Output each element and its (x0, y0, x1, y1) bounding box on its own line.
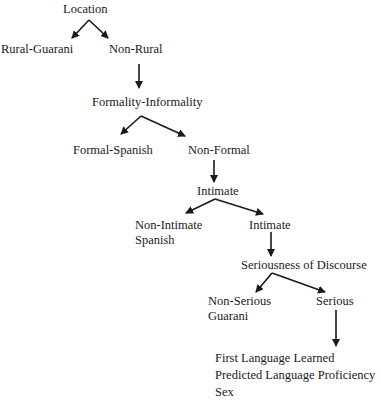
node-rural-guarani: Rural-Guarani (1, 42, 73, 57)
node-non-intimate-line1: Non-Intimate (135, 218, 202, 233)
arrow-seriousness-nonserious (256, 273, 272, 292)
arrow-location-nonrural (89, 20, 108, 38)
decision-tree-diagram: Location Rural-Guarani Non-Rural Formali… (0, 0, 380, 403)
node-location: Location (63, 2, 107, 17)
node-final-line3: Sex (215, 384, 375, 401)
node-non-serious-line1: Non-Serious (208, 294, 271, 309)
node-final-line2: Predicted Language Proficiency (215, 367, 375, 384)
node-final-factors: First Language Learned Predicted Languag… (215, 350, 375, 401)
arrow-intimate-intimate (215, 199, 263, 214)
node-non-intimate: Non-Intimate Spanish (135, 218, 202, 248)
node-final-line1: First Language Learned (215, 350, 375, 367)
node-non-serious-line2: Guarani (208, 309, 271, 324)
node-non-serious: Non-Serious Guarani (208, 294, 271, 324)
node-formal-spanish: Formal-Spanish (73, 143, 153, 158)
arrow-seriousness-serious (272, 273, 325, 292)
node-seriousness-of-discourse: Seriousness of Discourse (241, 258, 367, 273)
arrow-intimate-nonintimate (186, 199, 215, 213)
node-intimate: Intimate (249, 218, 291, 233)
tree-arrows (0, 0, 380, 403)
node-non-rural: Non-Rural (109, 42, 162, 57)
node-non-formal: Non-Formal (188, 143, 250, 158)
node-formality-informality: Formality-Informality (92, 95, 202, 110)
arrow-formality-formal (121, 116, 141, 134)
arrow-location-rural (72, 20, 89, 38)
node-intimate-question: Intimate (197, 184, 239, 199)
arrow-formality-nonformal (141, 116, 185, 136)
node-serious: Serious (316, 294, 354, 309)
node-non-intimate-line2: Spanish (135, 233, 202, 248)
